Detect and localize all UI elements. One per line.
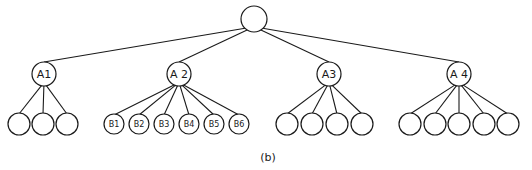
node-circle: [56, 113, 78, 135]
node-label: A 4: [450, 68, 468, 81]
edge-A3-child-4: [329, 82, 362, 114]
edge-A1-child-3: [44, 82, 67, 114]
edge-A4-child-5: [459, 82, 508, 114]
node-circle: [276, 113, 298, 135]
edge-A3-child-2: [312, 82, 329, 114]
node-b4: B4: [179, 114, 199, 134]
node-circle: [424, 113, 446, 135]
edge-A1-child-1: [19, 82, 44, 114]
tree-nodes: A1A 2B1B2B3B4B5B6A3A 4: [8, 6, 519, 135]
node-a3: A3: [317, 62, 341, 86]
edge-root-A2: [179, 27, 254, 62]
leaf-node-a1-2: [32, 113, 54, 135]
node-label: B1: [109, 120, 120, 129]
edge-A4-child-2: [435, 82, 459, 114]
edge-A2-child-3: [164, 82, 179, 115]
leaf-node-a4-1: [399, 113, 421, 135]
edge-A3-child-3: [329, 82, 337, 114]
node-circle: [32, 113, 54, 135]
edge-root-A4: [254, 27, 459, 62]
edge-root-A3: [254, 27, 329, 62]
node-circle: [301, 113, 323, 135]
node-label: B4: [184, 120, 195, 129]
edge-A2-child-2: [139, 82, 179, 115]
node-b5: B5: [204, 114, 224, 134]
node-b6: B6: [229, 114, 249, 134]
node-label: A 2: [170, 68, 188, 81]
edge-A1-child-2: [43, 82, 44, 114]
node-b3: B3: [154, 114, 174, 134]
leaf-node-a3-3: [326, 113, 348, 135]
node-circle: [448, 113, 470, 135]
tree-diagram: A1A 2B1B2B3B4B5B6A3A 4 (b): [0, 0, 532, 170]
node-b1: B1: [104, 114, 124, 134]
edge-A4-child-4: [459, 82, 484, 114]
leaf-node-a1-1: [8, 113, 30, 135]
leaf-node-a3-1: [276, 113, 298, 135]
leaf-node-a3-4: [351, 113, 373, 135]
node-circle: [8, 113, 30, 135]
node-b2: B2: [129, 114, 149, 134]
root-node: [241, 6, 267, 32]
leaf-node-a3-2: [301, 113, 323, 135]
node-label: B5: [209, 120, 220, 129]
node-circle: [326, 113, 348, 135]
leaf-node-a4-2: [424, 113, 446, 135]
node-label: A1: [37, 68, 52, 81]
edge-A4-child-1: [410, 82, 459, 114]
node-circle: [473, 113, 495, 135]
node-circle: [497, 113, 519, 135]
node-a4: A 4: [447, 62, 471, 86]
leaf-node-a4-5: [497, 113, 519, 135]
edge-A2-child-1: [114, 82, 179, 115]
figure-caption: (b): [260, 151, 276, 164]
tree-edges: [19, 27, 508, 115]
leaf-node-a4-4: [473, 113, 495, 135]
node-a1: A1: [32, 62, 56, 86]
node-circle: [241, 6, 267, 32]
node-label: A3: [322, 68, 337, 81]
leaf-node-a4-3: [448, 113, 470, 135]
leaf-node-a1-3: [56, 113, 78, 135]
node-label: B6: [234, 120, 245, 129]
node-label: B2: [134, 120, 145, 129]
node-circle: [351, 113, 373, 135]
node-label: B3: [159, 120, 170, 129]
node-circle: [399, 113, 421, 135]
edge-A3-child-1: [287, 82, 329, 114]
node-a2: A 2: [167, 62, 191, 86]
edge-root-A1: [44, 27, 254, 62]
